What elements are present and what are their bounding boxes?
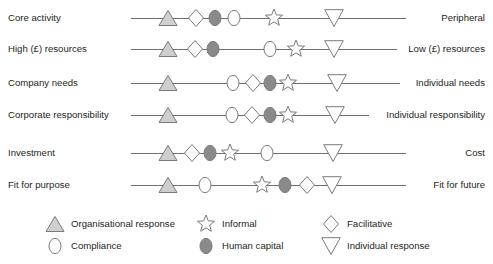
marker-human-capital-icon[interactable]: [208, 10, 222, 27]
legend-informal-icon: [197, 215, 216, 234]
marker-individual-response-icon[interactable]: [325, 106, 346, 125]
row-left-label: Core activity: [8, 12, 61, 23]
marker-individual-response-icon[interactable]: [324, 9, 345, 28]
marker-informal-icon[interactable]: [287, 40, 306, 59]
legend-facilitative-icon: [323, 215, 340, 234]
legend-label-compliance: Compliance: [71, 240, 122, 251]
row-left-label: High (£) resources: [8, 43, 87, 54]
marker-informal-icon[interactable]: [265, 9, 284, 28]
marker-informal-icon[interactable]: [279, 106, 298, 125]
marker-individual-response-icon[interactable]: [324, 40, 345, 59]
row-right-label: Low (£) resources: [408, 43, 485, 54]
row-right-label: Peripheral: [441, 12, 485, 23]
marker-compliance-icon[interactable]: [260, 145, 274, 162]
marker-facilitative-icon[interactable]: [244, 106, 261, 125]
marker-human-capital-icon[interactable]: [263, 107, 277, 124]
legend-label-human-capital: Human capital: [222, 240, 283, 251]
marker-informal-icon[interactable]: [279, 74, 298, 93]
legend-human-capital-icon: [199, 238, 213, 255]
row-left-label: Fit for purpose: [8, 179, 70, 190]
marker-human-capital-icon[interactable]: [278, 177, 292, 194]
marker-human-capital-icon[interactable]: [203, 145, 217, 162]
marker-facilitative-icon[interactable]: [188, 9, 205, 28]
marker-organisational-response-icon[interactable]: [158, 145, 178, 162]
marker-organisational-response-icon[interactable]: [158, 107, 178, 124]
legend-label-organisational-response: Organisational response: [71, 218, 175, 229]
row-left-label: Corporate responsibility: [8, 109, 109, 120]
marker-human-capital-icon[interactable]: [263, 75, 277, 92]
row-left-label: Investment: [8, 147, 55, 158]
row-right-label: Individual needs: [416, 77, 485, 88]
marker-compliance-icon[interactable]: [198, 177, 212, 194]
spectrum-diagram: Core activityPeripheralHigh (£) resource…: [0, 0, 493, 264]
row-right-label: Individual responsibility: [386, 109, 485, 120]
marker-individual-response-icon[interactable]: [322, 176, 343, 195]
marker-compliance-icon[interactable]: [225, 107, 239, 124]
marker-facilitative-icon[interactable]: [184, 144, 201, 163]
legend-organisational-response-icon: [45, 216, 65, 233]
row-right-label: Cost: [465, 147, 485, 158]
marker-informal-icon[interactable]: [253, 176, 272, 195]
marker-organisational-response-icon[interactable]: [158, 75, 178, 92]
marker-compliance-icon[interactable]: [226, 75, 240, 92]
marker-facilitative-icon[interactable]: [245, 74, 262, 93]
marker-individual-response-icon[interactable]: [327, 74, 348, 93]
marker-informal-icon[interactable]: [221, 144, 240, 163]
marker-facilitative-icon[interactable]: [187, 40, 204, 59]
marker-human-capital-icon[interactable]: [206, 41, 220, 58]
legend-label-informal: Informal: [222, 218, 257, 229]
marker-facilitative-icon[interactable]: [299, 176, 316, 195]
marker-individual-response-icon[interactable]: [323, 144, 344, 163]
marker-compliance-icon[interactable]: [263, 41, 277, 58]
legend-label-individual-response: Individual response: [347, 240, 430, 251]
legend-compliance-icon: [48, 238, 62, 255]
row-right-label: Fit for future: [433, 179, 485, 190]
marker-organisational-response-icon[interactable]: [158, 177, 178, 194]
marker-compliance-icon[interactable]: [227, 10, 241, 27]
legend-label-facilitative: Facilitative: [347, 218, 392, 229]
legend-individual-response-icon: [321, 237, 342, 256]
row-left-label: Company needs: [8, 77, 78, 88]
marker-organisational-response-icon[interactable]: [158, 10, 178, 27]
marker-organisational-response-icon[interactable]: [158, 41, 178, 58]
